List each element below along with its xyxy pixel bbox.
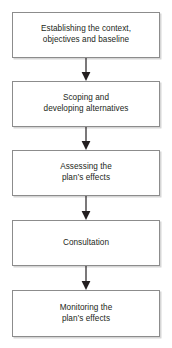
flowchart-node-label: Monitoring the plan’s effects xyxy=(56,303,117,324)
flowchart-node-label: Scoping and developing alternatives xyxy=(40,93,133,114)
flowchart-arrow-3 xyxy=(0,196,172,220)
flowchart-arrow-1 xyxy=(0,58,172,81)
flowchart-node-label: Assessing the plan’s effects xyxy=(56,162,116,183)
flowchart-node-establishing-context: Establishing the context, objectives and… xyxy=(12,12,160,58)
flowchart-node-consultation: Consultation xyxy=(12,220,160,266)
flowchart-arrow-4 xyxy=(0,266,172,290)
flowchart-node-monitoring-effects: Monitoring the plan’s effects xyxy=(12,290,160,337)
flowchart-node-label: Establishing the context, objectives and… xyxy=(37,24,135,45)
flowchart-node-scoping-alternatives: Scoping and developing alternatives xyxy=(12,81,160,127)
flowchart-node-label: Consultation xyxy=(59,238,113,249)
flowchart-diagram: Establishing the context, objectives and… xyxy=(0,0,172,348)
flowchart-node-assessing-effects: Assessing the plan’s effects xyxy=(12,150,160,196)
flowchart-arrow-2 xyxy=(0,127,172,150)
